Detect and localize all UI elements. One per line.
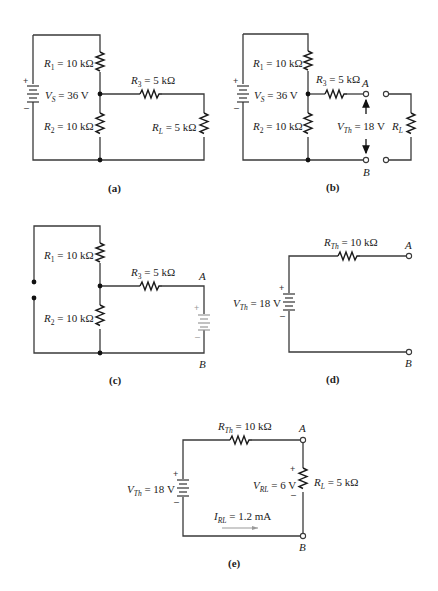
resistor-r2-icon: [304, 113, 312, 134]
wire-r3-right: [162, 94, 204, 113]
caption-e: (e): [228, 557, 241, 570]
node-dot: [98, 158, 103, 163]
node-dot: [98, 92, 103, 97]
plus-sign: +: [279, 283, 284, 293]
plus-sign: +: [233, 76, 238, 86]
label-vth: VTh = 18 V: [337, 120, 385, 135]
label-vrl: VRL = 6 V: [253, 479, 296, 494]
terminal-a: [300, 437, 305, 442]
label-vth: VTh = 18 V: [127, 483, 175, 498]
short-dot-top: [32, 280, 37, 285]
wire-rl-bottom: [389, 137, 411, 160]
battery-icon: [237, 86, 249, 102]
battery-icon: [177, 480, 189, 496]
label-r2: R2 = 10 kΩ: [252, 120, 303, 135]
terminal-b: [406, 349, 411, 354]
resistor-r3-icon: [325, 90, 347, 98]
minus-sign: –: [174, 497, 179, 507]
wire-top: [33, 35, 100, 52]
wire-bottom: [34, 298, 204, 353]
wire-bottom: [289, 311, 407, 352]
terminal-a: [363, 91, 368, 96]
label-r3: R3 = 5 kΩ: [315, 73, 360, 88]
node-dot: [306, 158, 311, 163]
circuit-c: + – R1 = 10 kΩ R2 = 10 kΩ R3 = 5 kΩ A B …: [32, 226, 210, 387]
resistor-r1-icon: [96, 52, 104, 71]
label-r3: R3 = 5 kΩ: [130, 74, 175, 89]
label-r3: R3 = 5 kΩ: [130, 266, 175, 281]
ghost-minus-sign: –: [195, 332, 200, 342]
battery-icon: [27, 86, 39, 102]
thevenin-figure: + – R1 = 10 kΩ VS = 36 V R2 = 10 kΩ R3 =…: [0, 0, 438, 591]
short-dot-bottom: [32, 296, 37, 301]
load-terminal-bottom: [383, 157, 388, 162]
label-rl: RL = 5 kΩ: [151, 121, 197, 136]
label-terminal-a: A: [361, 77, 369, 89]
resistor-rth-icon: [230, 436, 252, 444]
label-rl: RL: [391, 120, 403, 135]
label-r2: R2 = 10 kΩ: [43, 120, 94, 135]
vrl-plus-sign: +: [290, 464, 295, 474]
resistor-r3-icon: [140, 90, 162, 98]
label-r1: R1 = 10 kΩ: [252, 57, 303, 72]
label-terminal-a: A: [198, 270, 206, 282]
resistor-rth-icon: [338, 252, 360, 260]
resistor-r1-icon: [304, 51, 312, 70]
wire-top: [243, 34, 308, 51]
terminal-a: [406, 253, 411, 258]
wire-bottom-right: [308, 137, 366, 160]
label-terminal-b: B: [299, 541, 306, 553]
terminal-b: [300, 533, 305, 538]
battery-icon: [283, 294, 295, 310]
resistor-r2-icon: [96, 113, 104, 134]
wire-top-left: [289, 256, 338, 293]
terminal-b: [363, 157, 368, 162]
label-rth: RTh = 10 kΩ: [323, 236, 378, 251]
minus-sign: –: [280, 311, 285, 321]
label-rl: RL = 5 kΩ: [313, 476, 359, 491]
circuit-e: + – + – RTh = 10 kΩ VTh = 18 V VRL = 6 V…: [127, 420, 359, 570]
label-r1: R1 = 10 kΩ: [43, 57, 94, 72]
label-rth: RTh = 10 kΩ: [217, 420, 272, 435]
caption-d: (d): [326, 373, 340, 386]
resistor-r3-icon: [140, 282, 162, 290]
node-dot: [306, 92, 311, 97]
resistor-r2-icon: [96, 305, 104, 325]
resistor-rl-icon: [407, 113, 415, 134]
caption-c: (c): [109, 374, 122, 387]
plus-sign: +: [23, 76, 28, 86]
resistor-r1-icon: [96, 243, 104, 262]
node-dot: [98, 351, 103, 356]
label-terminal-b: B: [405, 357, 412, 369]
resistor-rl-icon: [299, 468, 307, 488]
caption-a: (a): [108, 182, 121, 195]
circuit-d: + – RTh = 10 kΩ VTh = 18 V A B (d): [233, 236, 412, 386]
label-terminal-b: B: [363, 166, 370, 178]
label-terminal-a: A: [404, 239, 412, 251]
minus-sign: –: [234, 103, 239, 113]
wire-rl-top: [389, 94, 411, 113]
label-terminal-b: B: [199, 358, 206, 370]
caption-b: (b): [326, 181, 340, 194]
ghost-battery-icon: [198, 315, 210, 330]
label-vs: VS = 36 V: [254, 89, 298, 104]
node-dot: [98, 284, 103, 289]
ghost-plus-sign: +: [194, 303, 199, 313]
label-r2: R2 = 10 kΩ: [43, 312, 94, 327]
resistor-rl-icon: [200, 113, 208, 134]
label-terminal-a: A: [298, 422, 306, 434]
label-vth: VTh = 18 V: [233, 297, 281, 312]
plus-sign: +: [173, 469, 178, 479]
circuit-a: + – R1 = 10 kΩ VS = 36 V R2 = 10 kΩ R3 =…: [23, 35, 208, 195]
vrl-minus-sign: –: [291, 490, 296, 500]
wire-top-left: [183, 440, 230, 479]
minus-sign: –: [24, 103, 29, 113]
label-r1: R1 = 10 kΩ: [43, 249, 94, 264]
label-irl: IRL = 1.2 mA: [213, 510, 271, 525]
label-vs: VS = 36 V: [45, 89, 89, 104]
circuit-b: + – R1 = 10 kΩ VS = 36 V R2 = 10 kΩ R3 =…: [233, 34, 415, 194]
load-terminal-top: [383, 91, 388, 96]
